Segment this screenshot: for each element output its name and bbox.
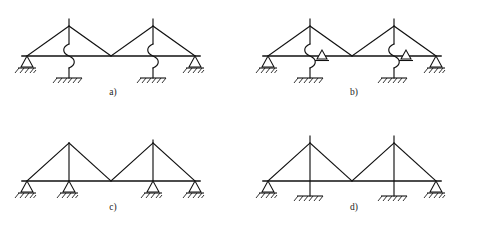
panel-label-d: d) [350,202,358,213]
structural-diagram-canvas: a) [0,0,482,229]
panel-c-pin-hatch-1 [15,193,36,198]
panel-a-rafter-right-2 [153,26,195,56]
panel-b-rafter-right-1 [310,26,352,56]
panel-d-rafter-left-1 [268,143,310,181]
panel-c-rafter-right-1 [69,143,111,181]
panel-c-pin-support-3 [147,181,159,192]
panel-a-pin-hatch-left [15,68,36,73]
panel-b-roller-support-1 [317,50,327,59]
panel-c: c) [15,140,204,213]
panel-d-pin-hatch-left [256,193,277,198]
panel-a-hatch-1 [53,78,82,83]
panel-a: a) [15,19,204,98]
panel-c-pin-hatch-2 [57,193,78,198]
panel-d: d) [256,136,445,213]
panel-b-rafter-left-2 [352,26,394,56]
panel-b-pin-support-right [430,56,442,67]
panel-label-c: c) [109,202,116,213]
panel-d-rafter-left-2 [352,143,394,181]
panel-d-hatch-2 [378,196,407,201]
panel-b-rafter-left-1 [268,26,310,56]
figure-sheet: a) [0,0,482,229]
panel-a-rafter-right-1 [69,26,111,56]
panel-c-pin-support-4 [189,181,201,192]
panel-d-rafter-right-1 [310,143,352,181]
panel-d-rafter-right-2 [394,143,436,181]
panel-c-pin-support-1 [21,181,33,192]
panel-b-hatch-1 [294,78,323,83]
panel-a-pin-support-left [21,56,33,67]
panel-c-rafter-right-2 [153,143,195,181]
panel-b-pin-support-left [262,56,274,67]
panel-a-rafter-left-2 [111,26,153,56]
panel-b-pin-hatch-right [424,68,445,73]
panel-a-pin-support-right [189,56,201,67]
panel-label-a: a) [109,87,116,98]
panel-a-pin-hatch-right [183,68,204,73]
panel-d-hatch-1 [294,196,323,201]
panel-label-b: b) [350,87,358,98]
panel-a-hatch-2 [137,78,166,83]
panel-b-rafter-right-2 [394,26,436,56]
panel-c-pin-hatch-4 [183,193,204,198]
panel-c-rafter-left-2 [111,143,153,181]
panel-b-roller-support-2 [401,50,411,59]
panel-b: b) [256,19,445,98]
panel-d-pin-support-left [262,181,274,192]
panel-d-pin-hatch-right [424,193,445,198]
panel-c-rafter-left-1 [27,143,69,181]
panel-b-hatch-2 [378,78,407,83]
panel-b-pin-hatch-left [256,68,277,73]
panel-a-rafter-left-1 [27,26,69,56]
panel-c-pin-hatch-3 [141,193,162,198]
panel-c-pin-support-2 [63,181,75,192]
panel-d-pin-support-right [430,181,442,192]
